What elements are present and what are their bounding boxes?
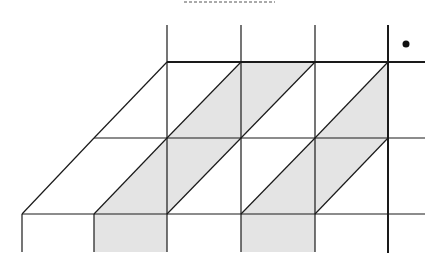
diagonal-top-1	[94, 62, 167, 138]
shaded-bottom-rect-left	[94, 214, 167, 252]
dot-marker	[403, 41, 410, 48]
diagonal-middle-1	[22, 138, 94, 214]
shaded-bottom-rect-right	[241, 214, 315, 252]
lattice-diagram	[0, 0, 441, 263]
